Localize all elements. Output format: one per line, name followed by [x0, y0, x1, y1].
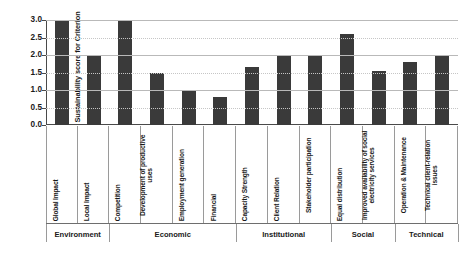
group-separator	[46, 224, 47, 242]
bar[interactable]	[403, 62, 417, 125]
y-tick-label: 2.0	[14, 51, 42, 59]
group-separator	[109, 224, 110, 242]
group-separator	[236, 224, 237, 242]
criterion-label: Equal distribution	[336, 168, 343, 221]
group-label: Institutional	[262, 230, 305, 239]
criterion-label-cell: Global Impact	[46, 126, 78, 223]
criterion-label-cell: Client Relation	[268, 126, 300, 223]
bar[interactable]	[245, 67, 259, 125]
y-tick-label: 3.0	[14, 16, 42, 24]
plot-area	[46, 20, 458, 125]
group-label: Economic	[155, 230, 191, 239]
criterion-label: Operation & Maintenance	[399, 129, 406, 221]
y-tick-mark	[42, 108, 46, 109]
bar[interactable]	[372, 71, 386, 125]
y-tick-mark	[42, 73, 46, 74]
criterion-label: Improved availability of social electric…	[361, 129, 375, 221]
group-separator	[395, 224, 396, 242]
gridline	[46, 108, 458, 109]
criterion-label: Competition	[114, 184, 121, 221]
criterion-label: Client Relation	[273, 177, 280, 221]
criterion-label: Technical client-relation issues	[424, 129, 438, 221]
group-separator	[458, 224, 459, 242]
y-tick-label: 1.5	[14, 69, 42, 77]
criterion-label-band: Global ImpactLocal ImpactCompetitionDeve…	[46, 126, 458, 224]
criterion-label-cell: Equal distribution	[331, 126, 363, 223]
criterion-label-cell: Capacity Strength	[236, 126, 268, 223]
sustainability-bar-chart: Sustainability score for Criterion 3.02.…	[0, 0, 465, 264]
gridline	[46, 90, 458, 91]
criterion-label-cell: Financial	[204, 126, 236, 223]
criterion-label-cell: Improved availability of social electric…	[363, 126, 395, 223]
criterion-label: Capacity Strength	[241, 167, 248, 221]
group-separator	[331, 224, 332, 242]
criterion-label-cell: Technical client-relation issues	[426, 126, 458, 223]
bar[interactable]	[340, 34, 354, 125]
bar[interactable]	[150, 73, 164, 126]
y-axis-tick-labels: 3.02.52.01.51.00.50.0	[14, 14, 42, 126]
y-tick-label: 1.0	[14, 86, 42, 94]
group-label: Technical	[409, 230, 443, 239]
group-label: Social	[352, 230, 374, 239]
bar[interactable]	[213, 97, 227, 125]
criterion-label-cell: Local Impact	[78, 126, 110, 223]
criterion-label: Employment generation	[178, 149, 185, 221]
y-tick-label: 0.5	[14, 104, 42, 112]
criterion-label: Global Impact	[51, 179, 58, 221]
gridline	[46, 73, 458, 74]
criterion-label: Financial	[209, 194, 216, 221]
gridline	[46, 20, 458, 21]
y-tick-label: 2.5	[14, 34, 42, 42]
group-label-cell: Social	[331, 223, 394, 245]
group-label-cell: Economic	[109, 223, 236, 245]
gridline	[46, 55, 458, 56]
criterion-label: Local Impact	[83, 182, 90, 221]
y-tick-mark	[42, 20, 46, 21]
criterion-label-cell: Operation & Maintenance	[395, 126, 427, 223]
criterion-label: Stakeholder participation	[304, 129, 311, 221]
criterion-label: Development of productive uses	[139, 129, 153, 221]
y-tick-mark	[42, 90, 46, 91]
group-label: Environment	[54, 230, 100, 239]
y-tick-label: 0.0	[14, 121, 42, 129]
criterion-label-cell: Development of productive uses	[141, 126, 173, 223]
y-tick-mark	[42, 38, 46, 39]
criterion-label-cell: Stakeholder participation	[300, 126, 332, 223]
y-tick-mark	[42, 55, 46, 56]
group-label-cell: Institutional	[236, 223, 331, 245]
group-label-cell: Technical	[395, 223, 458, 245]
criterion-label-cell: Competition	[109, 126, 141, 223]
gridline	[46, 38, 458, 39]
category-band: EnvironmentEconomicInstitutionalSocialTe…	[46, 223, 458, 245]
criterion-label-cell: Employment generation	[173, 126, 205, 223]
group-label-cell: Environment	[46, 223, 109, 245]
